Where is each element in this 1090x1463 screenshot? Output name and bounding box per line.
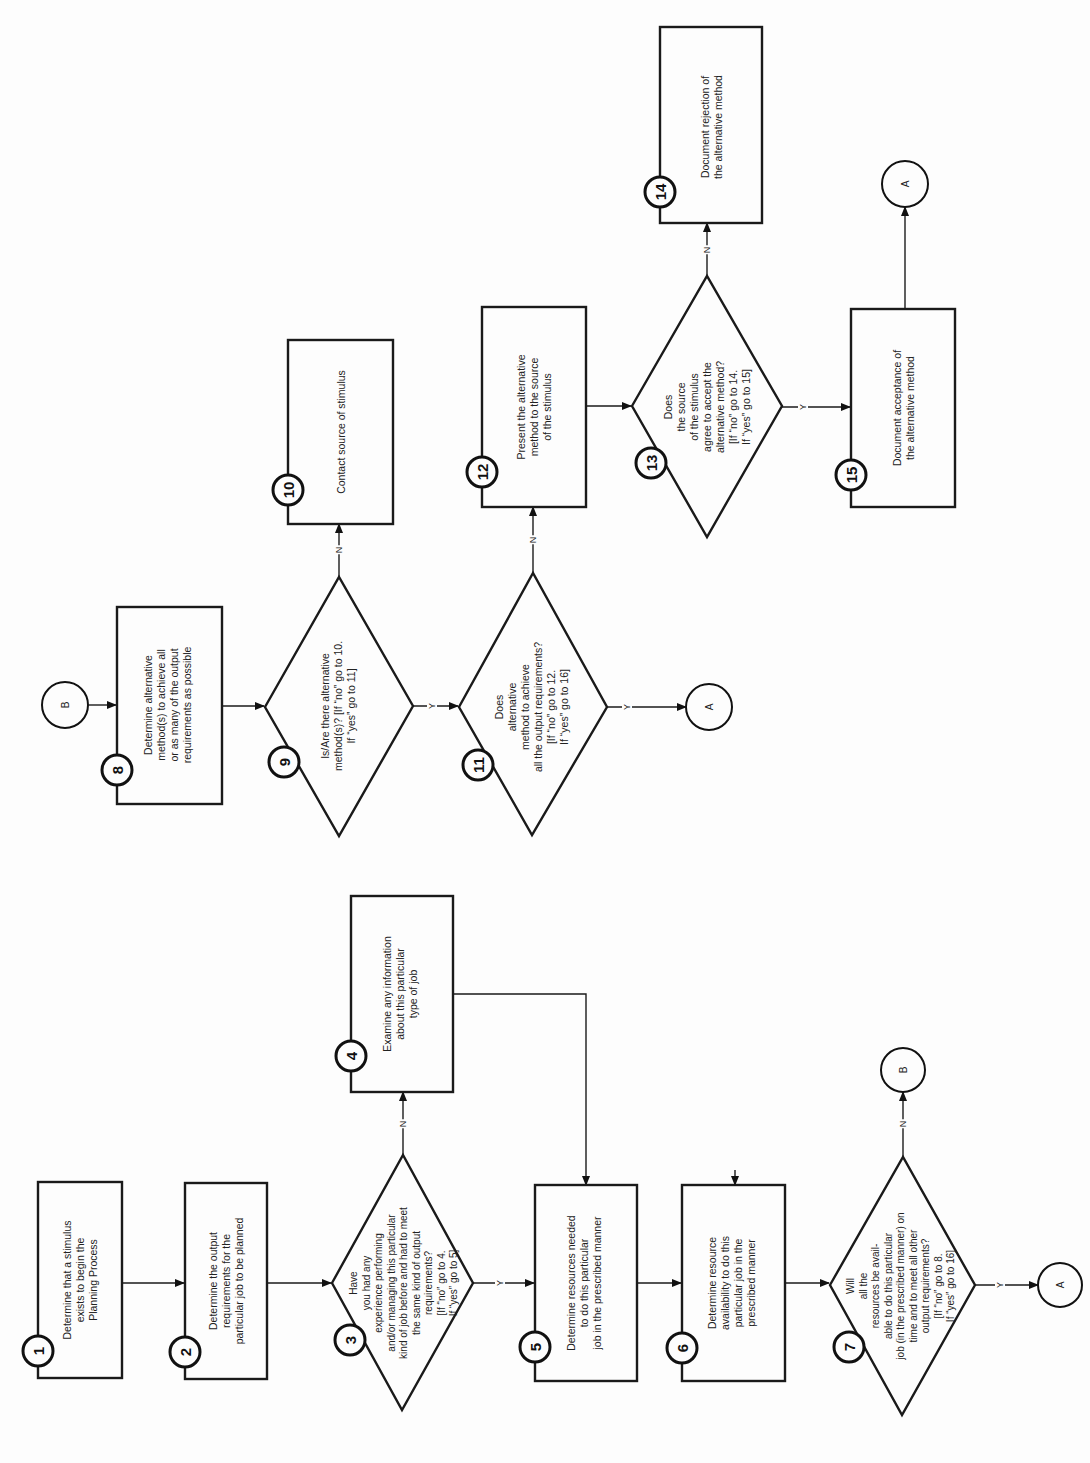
branch-yes-3: Y	[495, 1279, 505, 1287]
branch-no-13: N	[702, 246, 712, 255]
step-number-12: 12	[474, 464, 491, 481]
step-number-10: 10	[280, 482, 297, 499]
step-number-13: 13	[643, 455, 660, 472]
step-number-15: 15	[843, 467, 860, 484]
step-number-9: 9	[276, 758, 293, 766]
step-text-4: Examine any information about this parti…	[381, 936, 420, 1052]
branch-no-11: N	[528, 536, 538, 545]
branch-yes-11: Y	[622, 703, 632, 711]
connector-a-15-label: A	[900, 181, 911, 188]
connector-b-out-label: B	[898, 1067, 909, 1074]
step-text-14: Document rejection of the alternative me…	[699, 75, 725, 179]
branch-no-3: N	[398, 1120, 408, 1129]
step-number-14: 14	[652, 184, 669, 201]
branch-no-9: N	[334, 546, 344, 555]
step-number-5: 5	[527, 1343, 544, 1351]
step-text-12: Present the alternative method to the so…	[515, 354, 554, 459]
step-text-5: Determine resources needed to do this pa…	[565, 1215, 604, 1350]
branch-yes-9: Y	[427, 702, 437, 710]
step-text-3: Have you had any experience performing a…	[348, 1207, 461, 1359]
step-text-11: Does alternative method to achieve all t…	[493, 642, 571, 772]
branch-yes-7: Y	[995, 1281, 1005, 1289]
step-number-6: 6	[674, 1344, 691, 1352]
step-text-6: Determine resource availability to do th…	[706, 1236, 758, 1330]
step-number-4: 4	[343, 1052, 360, 1060]
step-number-1: 1	[30, 1347, 47, 1355]
branch-yes-13: Y	[798, 403, 808, 411]
step-text-7: Will all the resources be avail- able to…	[845, 1212, 958, 1359]
step-text-2: Determine the output requirements for th…	[207, 1218, 246, 1345]
branch-no-7: N	[898, 1120, 908, 1129]
step-text-15: Document acceptance of the alternative m…	[891, 350, 917, 466]
connector-a-7-label: A	[1055, 1282, 1066, 1289]
step-text-13: Does the source of the stimulus agree to…	[662, 361, 753, 453]
step-text-9: Is/Are there alternative method(s)? [If …	[319, 641, 358, 771]
connector-a-11-label: A	[704, 704, 715, 711]
step-text-8: Determine alternative method(s) to achie…	[142, 647, 194, 764]
step-number-8: 8	[109, 766, 126, 774]
connector-b-in-label: B	[60, 702, 71, 709]
step-number-2: 2	[177, 1348, 194, 1356]
step-number-11: 11	[470, 757, 487, 773]
flowchart-canvas: 1 2 3 4 5 6 7 8 9 10 11 12 13 14 15 Dete…	[0, 0, 1090, 1463]
step-text-10: Contact source of stimulus	[335, 370, 348, 494]
step-text-1: Determine that a stimulus exists to begi…	[61, 1220, 100, 1339]
